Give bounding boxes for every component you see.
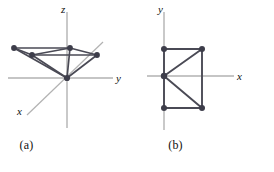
panel-b-plot: y x — [137, 0, 274, 140]
z-axis-label: z — [60, 3, 66, 15]
panel-a-edges — [14, 48, 97, 78]
panel-a-plot: z y x — [0, 0, 137, 140]
vertex-v1 — [11, 45, 17, 51]
panel-b-edges — [164, 49, 202, 108]
vertex-w3-origin — [161, 73, 167, 79]
edge-w2-w3 — [164, 49, 202, 76]
panel-b: y x (b) — [137, 0, 274, 172]
y-axis-label: y — [157, 3, 163, 15]
edge-w3-w5 — [164, 76, 202, 108]
vertex-w4 — [161, 105, 167, 111]
vertex-v5-origin — [64, 75, 70, 81]
edge-v4-v5 — [67, 55, 97, 78]
vertex-w1 — [161, 46, 167, 52]
x-axis-label: x — [16, 105, 22, 117]
panel-b-caption: (b) — [107, 138, 244, 153]
x-axis-label: x — [236, 70, 242, 82]
vertex-v4 — [94, 52, 100, 58]
vertex-v3 — [67, 45, 73, 51]
panel-a-caption: (a) — [0, 138, 95, 153]
vertex-w5 — [199, 105, 205, 111]
panel-a-axes — [8, 12, 113, 128]
vertex-w2 — [199, 46, 205, 52]
y-axis-label: y — [115, 72, 121, 84]
figure-container: z y x (a — [0, 0, 274, 172]
edge-v2-v5 — [32, 55, 67, 78]
edge-v2-v3 — [32, 48, 70, 55]
panel-b-axes — [147, 12, 234, 130]
vertex-v2 — [29, 52, 35, 58]
